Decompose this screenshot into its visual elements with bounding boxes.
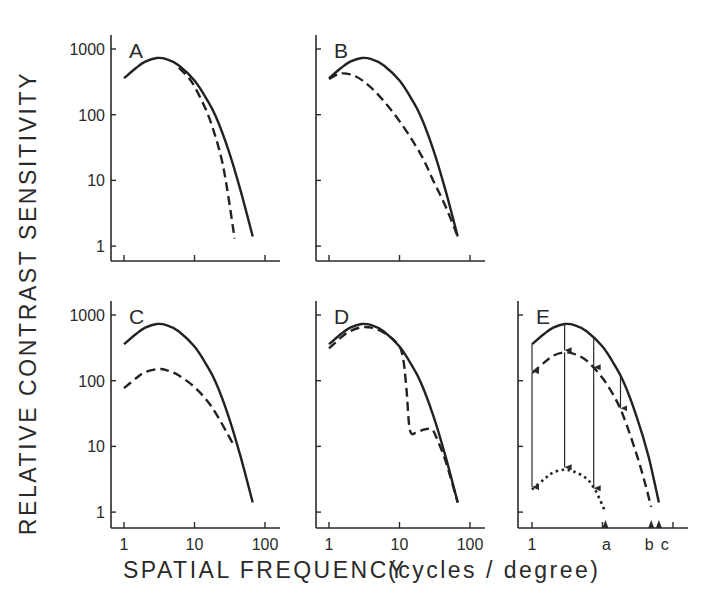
series-loss	[179, 68, 235, 239]
series-further-reduced	[532, 470, 605, 512]
marker-label-c: c	[661, 536, 669, 553]
x-tick-label: 10	[186, 536, 204, 553]
panel-e: 1abcE	[518, 301, 688, 553]
series-normal	[329, 58, 458, 237]
marker-triangle-icon	[656, 520, 662, 528]
series-normal	[124, 58, 253, 237]
x-tick-label: 1	[528, 536, 537, 553]
y-tick-label: 10	[87, 172, 105, 189]
marker-label-a: a	[602, 536, 611, 553]
x-tick-label: 100	[252, 536, 279, 553]
x-tick-label: 1	[120, 536, 129, 553]
panel-label: E	[536, 305, 550, 328]
y-tick-label: 10	[87, 438, 105, 455]
y-tick-label: 1	[96, 504, 105, 521]
panel-label: A	[129, 39, 143, 62]
series-loss	[124, 369, 233, 444]
figure-canvas: 1101001000AB1101001000110100C110100D1abc…	[0, 0, 720, 609]
y-tick-label: 1000	[69, 41, 105, 58]
marker-triangle-icon	[648, 520, 654, 528]
marker-label-b: b	[645, 536, 654, 553]
panel-label: D	[334, 305, 349, 328]
x-axis-unit: (cycles / degree)	[388, 557, 601, 584]
panel-label: C	[129, 305, 144, 328]
y-tick-label: 100	[78, 107, 105, 124]
panel-b: B	[316, 35, 485, 261]
series-loss	[329, 327, 458, 503]
series-normal	[329, 324, 458, 503]
x-axis-label: SPATIAL FREQUENCY	[123, 557, 407, 584]
y-tick-label: 1000	[69, 307, 105, 324]
x-tick-label: 100	[457, 536, 484, 553]
y-tick-label: 100	[78, 373, 105, 390]
series-normal	[124, 324, 253, 503]
y-axis-label: RELATIVE CONTRAST SENSITIVITY	[15, 71, 42, 535]
series-loss	[329, 73, 458, 236]
series-normal	[532, 324, 659, 503]
panel-a: 1101001000A	[69, 35, 280, 261]
panel-c: 1101001000110100C	[69, 301, 280, 553]
y-tick-label: 1	[96, 238, 105, 255]
x-tick-label: 1	[325, 536, 334, 553]
panel-d: 110100D	[316, 301, 485, 553]
x-tick-label: 10	[391, 536, 409, 553]
series-reduced	[532, 352, 651, 507]
marker-triangle-icon	[602, 520, 608, 528]
panel-label: B	[334, 39, 348, 62]
